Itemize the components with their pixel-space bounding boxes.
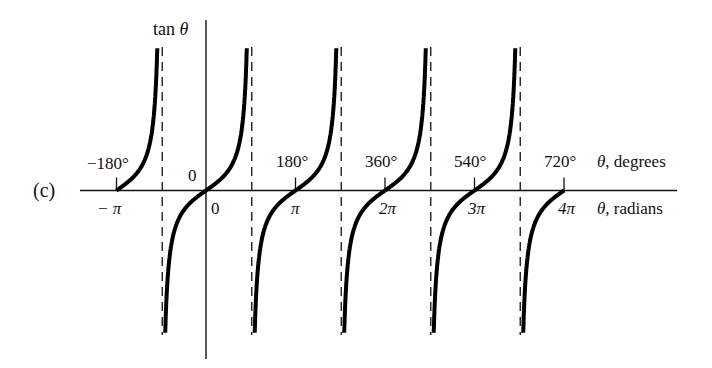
tick-label-3pi-rad: 3π — [468, 200, 485, 217]
radians-text: , radians — [605, 199, 663, 218]
degree-ticks — [117, 178, 565, 191]
tangent-plot — [0, 0, 712, 368]
tick-label-pi-rad: π — [291, 200, 300, 217]
y-axis-label: tan θ — [153, 20, 188, 38]
tick-label-180-deg: 180° — [276, 153, 308, 170]
x-axis-label-degrees: θ, degrees — [597, 153, 666, 170]
tick-label-540-deg: 540° — [454, 153, 486, 170]
tick-label-360-deg: 360° — [365, 153, 397, 170]
y-axis-label-text: tan — [153, 19, 180, 39]
tick-label-neg180-deg: −180° — [87, 155, 129, 172]
y-axis-label-var: θ — [180, 19, 189, 39]
tick-label-negpi-rad: − π — [97, 200, 121, 217]
tick-label-4pi-rad: 4π — [558, 200, 575, 217]
x-axis-label-radians: θ, radians — [597, 200, 663, 217]
panel-label: (c) — [33, 180, 55, 200]
degrees-text: , degrees — [605, 152, 665, 171]
tick-label-2pi-rad: 2π — [379, 200, 396, 217]
tick-label-720-deg: 720° — [544, 153, 576, 170]
tick-label-0-deg: 0 — [188, 167, 197, 184]
tick-label-0-rad: 0 — [211, 200, 220, 217]
